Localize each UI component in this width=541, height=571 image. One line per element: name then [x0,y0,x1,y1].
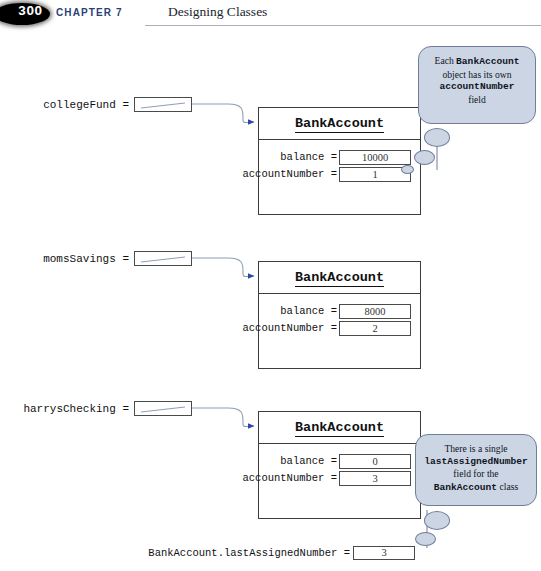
variable-row-momsSavings: momsSavings = [12,250,192,268]
object-title-3: BankAccount [259,412,420,443]
object-title-2: BankAccount [259,262,420,293]
field-value[interactable]: 3 [339,471,411,486]
callout-line-4: BankAccount class [423,481,529,495]
field-label: accountNumber = [242,321,337,336]
field-row-accountNumber-1: accountNumber = 1 [259,167,420,182]
field-row-balance-1: balance = 10000 [259,150,420,165]
callout-tail-dot-large-1 [424,128,450,147]
object-title-divider [259,293,420,294]
callout-line-4: field [426,94,528,107]
field-label: balance = [280,304,337,319]
static-field-value[interactable]: 3 [353,546,415,560]
reference-value-box[interactable] [134,401,192,416]
field-label: balance = [280,150,337,165]
callout-line-3: field for the [423,468,529,481]
reference-slash [135,403,191,416]
object-title-1: BankAccount [259,108,420,139]
field-value[interactable]: 10000 [339,150,411,165]
reference-value-box[interactable] [134,251,192,266]
variable-row-collegeFund: collegeFund = [12,96,192,114]
field-value[interactable]: 2 [339,321,411,336]
object-title-divider [259,443,420,444]
static-field-callout: There is a single lastAssignedNumber fie… [415,434,537,506]
field-label: balance = [280,454,337,469]
field-row-balance-2: balance = 8000 [259,304,420,319]
variable-name-label: momsSavings = [43,250,129,268]
reference-slash [135,99,191,112]
object-reference-diagram: collegeFund = BankAccount balance = 1000… [0,0,541,571]
instance-field-callout: Each BankAccount object has its own acco… [418,46,536,124]
connector-wire-3 [192,408,254,427]
callout-tail-dot-small-1 [401,165,414,174]
callout-line-1: There is a single [423,443,529,456]
field-label: accountNumber = [242,471,337,486]
field-row-balance-3: balance = 0 [259,454,420,469]
callout-tail-dot-medium-1 [414,150,435,165]
variable-name-label: collegeFund = [43,96,129,114]
connector-wire-1 [192,104,254,123]
object-box-2: BankAccount balance = 8000 accountNumber… [258,261,421,369]
field-value[interactable]: 8000 [339,304,411,319]
callout-line-2: object has its own [426,69,528,82]
reference-slash [135,253,191,266]
connector-wire-2 [192,258,254,277]
field-row-accountNumber-3: accountNumber = 3 [259,471,420,486]
field-label: accountNumber = [242,167,337,182]
object-box-1: BankAccount balance = 10000 accountNumbe… [258,107,421,215]
callout-line-3: accountNumber [426,81,528,94]
field-row-accountNumber-2: accountNumber = 2 [259,321,420,336]
callout-tail-dot-large-2 [424,511,450,530]
object-box-3: BankAccount balance = 0 accountNumber = … [258,411,421,519]
object-title-divider [259,139,420,140]
field-value[interactable]: 0 [339,454,411,469]
reference-value-box[interactable] [134,97,192,112]
variable-row-harrysChecking: harrysChecking = [12,400,192,418]
callout-line-2: lastAssignedNumber [423,456,529,469]
static-field-row: BankAccount.lastAssignedNumber = 3 [120,545,416,561]
variable-name-label: harrysChecking = [23,400,129,418]
callout-line-1: Each BankAccount [426,55,528,69]
static-field-label: BankAccount.lastAssignedNumber = [148,545,350,561]
callout-tail-dot-medium-2 [415,532,436,546]
